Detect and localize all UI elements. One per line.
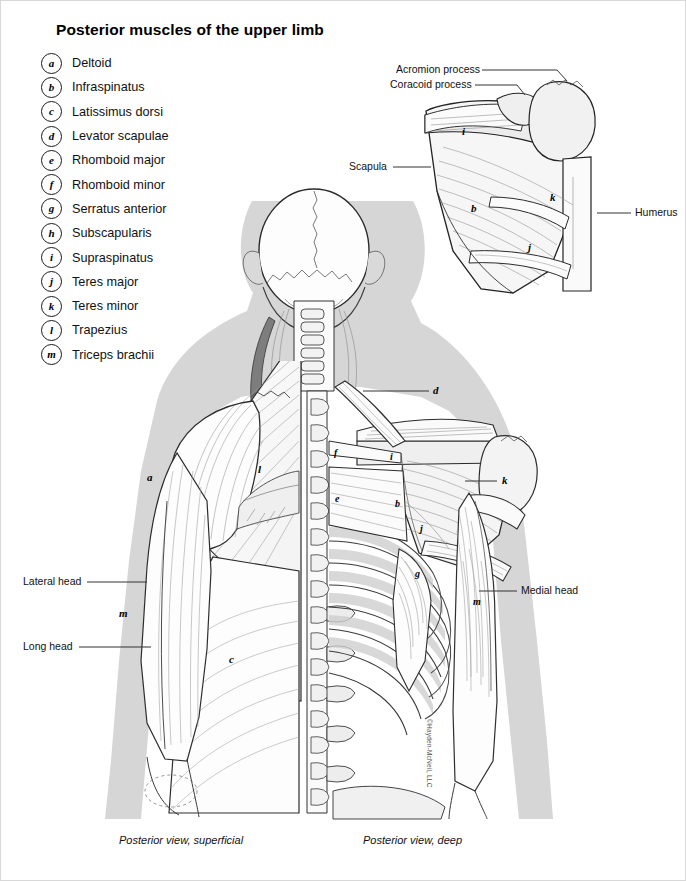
marker-g: g: [415, 568, 420, 579]
legend-label: Infraspinatus: [72, 80, 145, 94]
legend-label: Rhomboid major: [72, 153, 165, 167]
legend-key: i: [41, 247, 62, 268]
label-scapula: Scapula: [349, 160, 387, 172]
label-long-head: Long head: [23, 640, 73, 652]
marker-d: d: [433, 384, 439, 396]
legend-label: Rhomboid minor: [72, 178, 165, 192]
marker-j: j: [420, 523, 423, 534]
legend-key: c: [41, 101, 62, 122]
marker-inset-j: j: [528, 241, 531, 253]
thoracic-spine: [307, 391, 329, 813]
legend-label: Teres minor: [72, 299, 138, 313]
deltoid-fibers: [183, 403, 263, 541]
legend-item: c Latissimus dorsi: [41, 100, 271, 124]
marker-a: a: [147, 471, 153, 483]
page-title: Posterior muscles of the upper limb: [56, 21, 324, 39]
serratus-anterior: [393, 549, 431, 691]
marker-inset-k: k: [550, 191, 556, 203]
marker-e: e: [335, 493, 339, 504]
triceps-fibers: [159, 465, 205, 745]
legend-item: k Teres minor: [41, 294, 271, 318]
figure-page: Posterior muscles of the upper limb a De…: [0, 0, 686, 881]
legend-item: b Infraspinatus: [41, 75, 271, 99]
rhomboid-fibers: [331, 473, 405, 531]
rib-cage: [329, 521, 445, 735]
copyright-credit: ©Hayden-McNeil, LLC: [426, 719, 433, 788]
legend-label: Serratus anterior: [72, 202, 167, 216]
legend-key: a: [41, 53, 62, 74]
legend-item: j Teres major: [41, 270, 271, 294]
legend-label: Supraspinatus: [72, 251, 153, 265]
humerus-head: [479, 436, 537, 518]
marker-m-left: m: [119, 607, 128, 619]
label-medial-head: Medial head: [521, 584, 578, 596]
label-humerus: Humerus: [635, 206, 678, 218]
legend-label: Teres major: [72, 275, 138, 289]
legend-key: e: [41, 150, 62, 171]
superficial-view: [141, 331, 301, 817]
label-lateral-head: Lateral head: [23, 575, 81, 587]
marker-inset-b: b: [471, 202, 477, 214]
spinous-processes: [327, 606, 355, 782]
inset-infraspinatus-fibers: [437, 147, 573, 285]
legend-key: j: [41, 271, 62, 292]
legend-key: b: [41, 77, 62, 98]
legend-key: l: [41, 320, 62, 341]
marker-f: f: [334, 447, 337, 458]
marker-l: l: [258, 463, 261, 475]
legend-key: d: [41, 126, 62, 147]
legend-item: d Levator scapulae: [41, 124, 271, 148]
legend-label: Deltoid: [72, 56, 112, 70]
leader-coracoid: [475, 85, 525, 95]
caption-left: Posterior view, superficial: [119, 834, 243, 846]
marker-b: b: [395, 498, 400, 509]
legend-key: g: [41, 198, 62, 219]
marker-k: k: [502, 474, 508, 486]
deep-view: [307, 381, 537, 819]
legend-label: Levator scapulae: [72, 129, 169, 143]
marker-inset-i: i: [462, 125, 465, 137]
legend-item: i Supraspinatus: [41, 245, 271, 269]
scapula-inset: [425, 80, 595, 293]
legend-item: e Rhomboid major: [41, 148, 271, 172]
legend-item: g Serratus anterior: [41, 197, 271, 221]
latissimus-fibers: [172, 601, 299, 809]
legend-item: f Rhomboid minor: [41, 172, 271, 196]
marker-m-right: m: [473, 596, 481, 607]
legend-item: a Deltoid: [41, 51, 271, 75]
legend-item: l Trapezius: [41, 318, 271, 342]
legend-label: Latissimus dorsi: [72, 105, 163, 119]
legend-item: m Triceps brachii: [41, 343, 271, 367]
scapula-deep: [357, 419, 509, 567]
legend-list: a Deltoid b Infraspinatus c Latissimus d…: [41, 51, 271, 367]
legend-key: m: [41, 344, 62, 365]
legend-label: Trapezius: [72, 323, 127, 337]
caption-right: Posterior view, deep: [363, 834, 462, 846]
trapezius-fibers: [187, 353, 299, 597]
legend-key: k: [41, 296, 62, 317]
marker-i: i: [390, 451, 393, 462]
legend-key: h: [41, 223, 62, 244]
leader-acromion: [482, 70, 567, 81]
label-coracoid-process: Coracoid process: [390, 78, 472, 90]
legend-item: h Subscapularis: [41, 221, 271, 245]
legend-label: Subscapularis: [72, 226, 152, 240]
intercostal-shading: [329, 527, 445, 715]
legend-key: f: [41, 174, 62, 195]
legend-label: Triceps brachii: [72, 348, 154, 362]
marker-c: c: [229, 653, 234, 665]
label-acromion-process: Acromion process: [396, 63, 480, 75]
